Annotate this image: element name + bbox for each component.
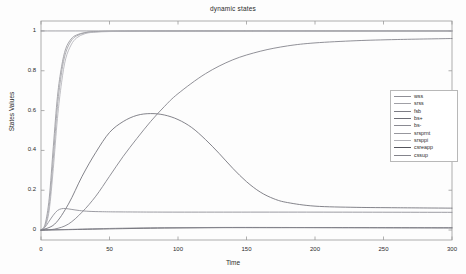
legend-swatch-icon <box>394 103 411 104</box>
legend-label: wss <box>414 93 423 100</box>
y-axis-label: States Values <box>8 79 15 145</box>
x-tick-label: 0 <box>29 246 53 252</box>
legend-swatch-icon <box>394 155 411 156</box>
y-tick-label: 0 <box>16 226 36 232</box>
legend-label: bs+ <box>414 115 423 122</box>
legend-swatch-icon <box>394 140 411 141</box>
legend-swatch-icon <box>394 118 411 119</box>
legend-item-srsppi[interactable]: srsppi <box>391 137 457 144</box>
legend-label: bs- <box>414 122 421 129</box>
legend-item-wss[interactable]: wss <box>391 93 457 100</box>
legend-swatch-icon <box>394 133 411 134</box>
x-tick-label: 250 <box>372 246 396 252</box>
x-tick-label: 200 <box>303 246 327 252</box>
legend-item-bs+[interactable]: bs+ <box>391 115 457 122</box>
figure-canvas: dynamic states States Values Time 050100… <box>0 0 466 274</box>
legend-label: srsprnt <box>414 130 430 137</box>
legend-item-srss[interactable]: srss <box>391 100 457 107</box>
legend-label: srsppi <box>414 137 428 144</box>
legend-item-bs-[interactable]: bs- <box>391 122 457 129</box>
legend-swatch-icon <box>394 96 411 97</box>
legend-item-fsb[interactable]: fsb <box>391 108 457 115</box>
legend-item-srsprnt[interactable]: srsprnt <box>391 129 457 136</box>
legend-label: cssup <box>414 152 428 159</box>
x-tick-label: 300 <box>440 246 464 252</box>
y-tick-label: 0.2 <box>16 186 36 192</box>
legend-label: srss <box>414 100 424 107</box>
y-tick-label: 0.8 <box>16 67 36 73</box>
legend-swatch-icon <box>394 111 411 112</box>
y-tick-label: 0.6 <box>16 107 36 113</box>
x-tick-label: 150 <box>235 246 259 252</box>
series-line-bs- <box>41 208 452 230</box>
x-tick-label: 50 <box>98 246 122 252</box>
legend-label: fsb <box>414 108 421 115</box>
legend-swatch-icon <box>394 147 411 148</box>
y-tick-label: 0.4 <box>16 146 36 152</box>
series-line-cssup <box>41 227 452 230</box>
y-tick-label: 1 <box>16 27 36 33</box>
legend-swatch-icon <box>394 125 411 126</box>
x-axis-label: Time <box>0 259 466 266</box>
chart-legend[interactable]: wsssrssfsbbs+bs-srsprntsrsppicsreappcssu… <box>390 90 458 162</box>
legend-item-csreapp[interactable]: csreapp <box>391 144 457 151</box>
legend-item-cssup[interactable]: cssup <box>391 151 457 158</box>
legend-label: csreapp <box>414 144 433 151</box>
x-tick-label: 100 <box>166 246 190 252</box>
